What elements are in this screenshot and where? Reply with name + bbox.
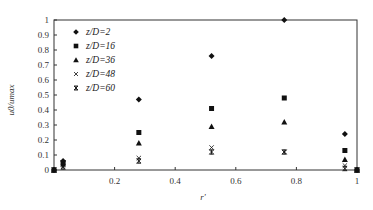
y-tick-label: 0.9 bbox=[38, 30, 50, 40]
legend-label: z/D=16 bbox=[85, 41, 115, 51]
series-z-d-60 bbox=[52, 150, 359, 172]
y-tick-label: 0.4 bbox=[38, 105, 50, 115]
y-tick-label: 1 bbox=[45, 15, 50, 25]
x-tick-label: 0.6 bbox=[230, 176, 242, 186]
legend-label: z/D=48 bbox=[85, 69, 115, 79]
y-tick-label: 0.5 bbox=[38, 90, 50, 100]
series-z-d-48 bbox=[52, 145, 359, 172]
legend-item: z/D=48 bbox=[74, 69, 115, 79]
square-marker-icon bbox=[74, 44, 79, 49]
x-tick-label: 1 bbox=[355, 176, 360, 186]
series-z-d-16 bbox=[52, 96, 360, 173]
y-tick-label: 0.8 bbox=[38, 45, 50, 55]
y-tick-label: 0.7 bbox=[38, 60, 50, 70]
legend-label: z/D=36 bbox=[85, 55, 115, 65]
y-tick-label: 0.6 bbox=[38, 75, 50, 85]
legend-label: z/D=60 bbox=[85, 83, 115, 93]
legend-item: z/D=2 bbox=[73, 27, 110, 37]
series-z-d-36 bbox=[51, 119, 360, 173]
x-tick-label: 0.4 bbox=[170, 176, 182, 186]
diamond-marker-icon bbox=[73, 29, 79, 35]
y-tick-label: 0 bbox=[45, 165, 50, 175]
x-marker-icon bbox=[74, 72, 78, 76]
y-tick-label: 0.3 bbox=[38, 120, 50, 130]
legend-item: z/D=16 bbox=[74, 41, 116, 51]
legend-item: z/D=60 bbox=[74, 83, 115, 93]
legend-label: z/D=2 bbox=[85, 27, 111, 37]
x-tick-label: 0.2 bbox=[109, 176, 120, 186]
triangle-marker-icon bbox=[73, 57, 79, 62]
y-tick-label: 0.1 bbox=[38, 150, 49, 160]
legend-item: z/D=36 bbox=[73, 55, 115, 65]
x-tick-label: 0.8 bbox=[291, 176, 303, 186]
scatter-chart: 00.10.20.30.40.50.60.70.80.91 0.20.40.60… bbox=[0, 0, 373, 210]
asterisk-marker-icon bbox=[74, 86, 78, 90]
x-axis-label: r' bbox=[200, 192, 207, 202]
legend: z/D=2z/D=16z/D=36z/D=48z/D=60 bbox=[73, 27, 115, 93]
y-axis-label: u0/umax bbox=[6, 85, 16, 116]
y-tick-label: 0.2 bbox=[38, 135, 49, 145]
